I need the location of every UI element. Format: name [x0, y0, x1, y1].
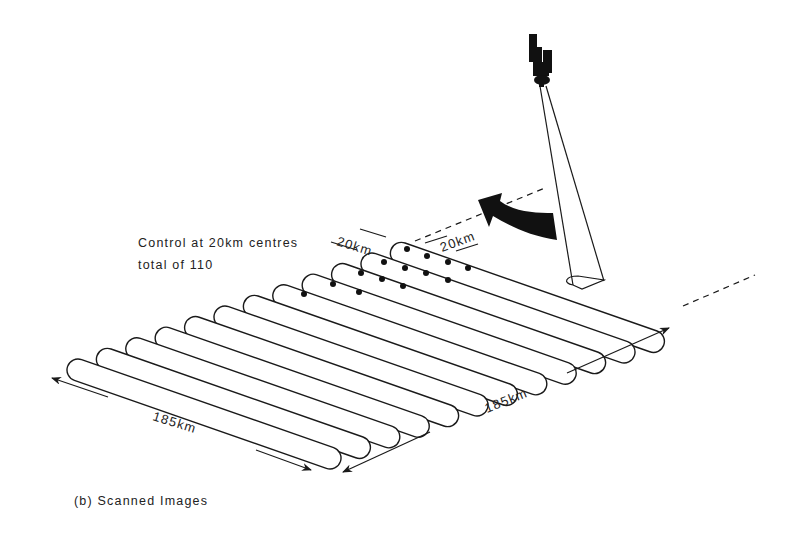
control-point — [358, 270, 364, 276]
annotation-line-2: total of 110 — [138, 258, 213, 272]
annotation-line-1: Control at 20km centres — [138, 236, 298, 250]
control-point — [379, 276, 385, 282]
spacing-label-left: 20km — [335, 234, 374, 259]
control-point — [356, 289, 362, 295]
control-point — [381, 259, 387, 265]
control-point — [424, 253, 430, 259]
control-point — [465, 265, 471, 271]
control-point — [404, 246, 410, 252]
curved-arrow-icon — [478, 193, 557, 240]
spacing-tick-left-2 — [360, 229, 386, 237]
control-point — [402, 265, 408, 271]
control-point — [400, 283, 406, 289]
scanned-images-diagram: 20km 20km 185km 185km Control at 20km ce… — [0, 0, 801, 533]
dashed-line-right — [683, 275, 755, 306]
satellite-icon — [529, 34, 552, 87]
control-point — [445, 259, 451, 265]
sensor-cone — [540, 86, 604, 289]
control-point — [423, 270, 429, 276]
control-point — [330, 281, 336, 287]
figure-caption: (b) Scanned Images — [74, 494, 208, 508]
control-point — [301, 291, 307, 297]
control-point — [445, 277, 451, 283]
